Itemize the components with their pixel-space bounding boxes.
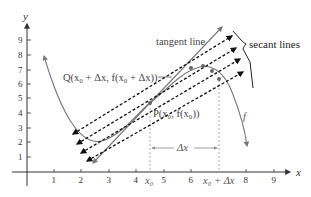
point-q-2 [201,64,205,68]
y-tick-8: 8 [18,50,23,60]
x-tick-3: 3 [107,175,112,185]
x-axis-label: x [295,166,301,178]
p-point-label: P(x₀, f(x₀)) [153,108,200,120]
y-tick-5: 5 [18,93,23,103]
delta-x-label: Δx [176,142,188,153]
point-q-3 [210,69,214,73]
x0-tick-label: x₀ [144,175,154,186]
x-tick-1: 1 [52,175,57,185]
y-tick-7: 7 [18,65,23,75]
secant-lines-annotation: secant lines [233,31,300,88]
function-label-f: f [243,111,248,122]
secant-tangent-diagram: x y 1 2 3 4 5 6 8 9 x₀ x₀ + Δx 1 [0,0,311,197]
y-tick-9: 9 [18,35,23,45]
q-point-label: Q(x₀ + Δx, f(x₀ + Δx)) [63,72,158,84]
secant-line-1 [73,36,232,134]
secant-lines [73,36,243,161]
y-axis-label: y [22,10,28,22]
delta-x-indicator: Δx [152,142,217,153]
x-tick-5: 5 [162,175,167,185]
x-tick-8: 8 [244,175,249,185]
secant-lines-label: secant lines [249,38,300,50]
y-tick-4: 4 [18,108,23,118]
point-q-4 [217,77,221,81]
x-tick-labels: 1 2 3 4 5 6 8 9 x₀ x₀ + Δx [52,175,277,186]
y-tick-6: 6 [18,79,23,89]
y-tick-2: 2 [18,137,23,147]
x-tick-2: 2 [79,175,84,185]
tangent-line [93,27,222,163]
y-tick-labels: 1 2 3 4 5 6 7 8 9 [18,35,23,162]
point-q-1 [189,66,193,70]
y-tick-1: 1 [18,152,23,162]
tangent-line-label: tangent line [156,36,206,47]
secant-line-2 [77,48,236,144]
x-tick-6: 6 [189,175,194,185]
curve-points [148,64,221,105]
y-tick-3: 3 [18,123,23,133]
q-point-annotation: Q(x₀ + Δx, f(x₀ + Δx)) [63,72,172,84]
y-ticks [27,40,31,157]
x-tick-9: 9 [272,175,277,185]
x0-plus-dx-tick-label: x₀ + Δx [202,175,235,186]
point-p [148,101,152,105]
x-tick-4: 4 [134,175,139,185]
